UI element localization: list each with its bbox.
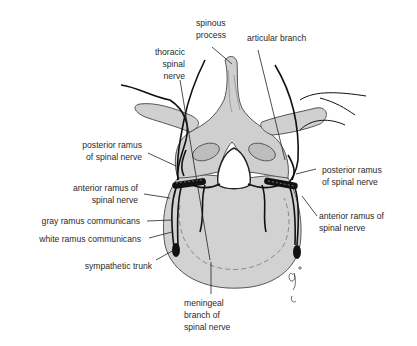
label-posterior-ramus-right: posterior ramus of spinal nerve xyxy=(322,164,382,188)
label-anterior-ramus-left: anterior ramus of spinal nerve xyxy=(40,182,138,206)
vertebral-body xyxy=(163,175,301,288)
label-gray-ramus-communicans: gray ramus communicans xyxy=(10,215,140,227)
label-spinous-process: spinous process xyxy=(196,17,226,41)
label-posterior-ramus-left: posterior ramus of spinal nerve xyxy=(50,139,142,163)
label-thoracic-spinal-nerve: thoracic spinal nerve xyxy=(135,46,185,82)
label-anterior-ramus-right: anterior ramus of spinal nerve xyxy=(319,210,384,234)
label-sympathetic-trunk: sympathetic trunk xyxy=(60,260,152,272)
label-meningeal-branch: meningeal branch of spinal nerve xyxy=(184,297,230,333)
anatomy-diagram: spinous process articular branch thoraci… xyxy=(0,0,417,346)
sympathetic-ganglion-right xyxy=(293,245,301,259)
label-white-ramus-communicans: white ramus communicans xyxy=(4,233,141,245)
left-transverse-process xyxy=(135,104,199,132)
label-articular-branch: articular branch xyxy=(247,32,306,44)
artist-signature xyxy=(289,267,301,302)
